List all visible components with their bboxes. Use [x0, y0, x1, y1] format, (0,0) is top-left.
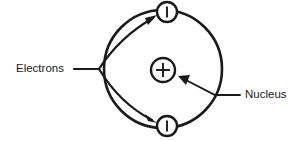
nucleus-leader-group: [178, 75, 240, 95]
nucleus-label: Nucleus: [245, 88, 287, 100]
electrons-lower-arrowhead: [145, 114, 157, 123]
nucleus-leader-line: [182, 78, 240, 95]
electrons-leader-lower-branch: [99, 69, 152, 120]
electrons-label: Electrons: [16, 62, 64, 74]
nucleus-particle: [151, 58, 175, 82]
electron-particle-top: [157, 2, 177, 22]
nucleus-arrowhead: [178, 75, 190, 85]
electrons-upper-arrowhead: [145, 15, 157, 25]
electrons-leader-group: [74, 15, 157, 123]
electron-particle-bottom: [157, 116, 177, 136]
electrons-leader-upper-branch: [99, 18, 153, 69]
atom-diagram: Electrons Nucleus: [0, 0, 298, 141]
atom-diagram-canvas: Electrons Nucleus: [0, 0, 298, 141]
